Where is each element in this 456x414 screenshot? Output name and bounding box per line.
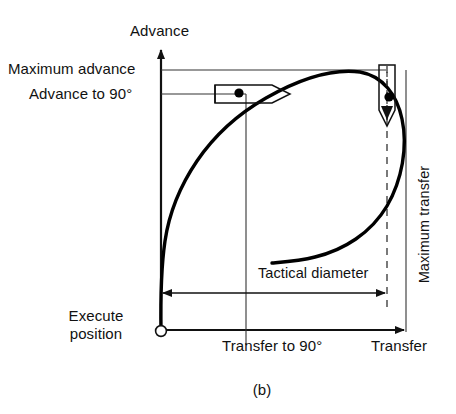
- y-axis-label: Advance: [130, 22, 189, 40]
- execute-position-marker: [156, 326, 167, 337]
- ship-symbol-heading-right: [215, 85, 290, 103]
- turning-circle-figure: Advance Maximum advance Advance to 90° E…: [0, 0, 456, 414]
- ship-track-point-right: [384, 92, 393, 101]
- tactical-diameter-label: Tactical diameter: [258, 265, 369, 282]
- ship-track-point-left: [234, 88, 243, 97]
- execute-position-label-line1: Execute: [48, 307, 144, 325]
- execute-position-label-line2: position: [48, 325, 144, 343]
- transfer-to-90-label: Transfer to 90°: [222, 337, 322, 355]
- x-axis-label: Transfer: [371, 337, 427, 355]
- maximum-transfer-label: Maximum transfer: [416, 155, 433, 295]
- execute-position-label: Execute position: [48, 307, 144, 342]
- figure-caption: (b): [212, 381, 312, 399]
- advance-to-90-label: Advance to 90°: [29, 85, 132, 103]
- maximum-advance-label: Maximum advance: [8, 60, 135, 78]
